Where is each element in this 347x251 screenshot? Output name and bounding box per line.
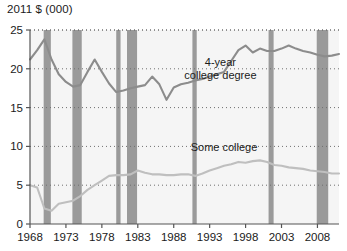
x-axis-tick-label: 1993 — [197, 231, 223, 243]
x-axis-tick-label: 1983 — [125, 231, 151, 243]
label-4year-line2: college degree — [184, 69, 256, 81]
x-axis-tick-label: 1968 — [17, 231, 43, 243]
y-axis-tick-label: 5 — [17, 179, 23, 191]
plot-area-wrapper: 0510152025 19681973197819831988199319982… — [0, 0, 347, 251]
y-axis-tick-label: 10 — [10, 140, 23, 152]
y-axis-tick-label: 25 — [10, 24, 23, 36]
y-axis-tick-label: 20 — [10, 63, 23, 75]
label-some-college-line1: Some college — [191, 141, 258, 153]
recession-band — [317, 30, 328, 224]
line-chart-svg: 0510152025 19681973197819831988199319982… — [0, 0, 347, 251]
recession-band — [192, 30, 196, 224]
x-axis-tick-label: 2003 — [269, 231, 295, 243]
x-axis-tick-label: 2008 — [305, 231, 331, 243]
x-axis-tick-label: 1998 — [233, 231, 259, 243]
recession-band — [44, 30, 51, 224]
y-axis-tick-label: 0 — [17, 218, 23, 230]
recession-band — [127, 30, 137, 224]
y-tick-labels-group: 0510152025 — [10, 24, 30, 230]
label-4year-line1: 4-year — [205, 56, 237, 68]
y-axis-tick-label: 15 — [10, 102, 23, 114]
chart-container: 2011 $ (000) 0510152025 1968197319781983… — [0, 0, 347, 251]
x-tick-labels-group: 196819731978198319881993199820032008 — [17, 224, 330, 243]
x-axis-tick-label: 1973 — [53, 231, 79, 243]
x-axis-tick-label: 1988 — [161, 231, 187, 243]
recession-band — [269, 30, 274, 224]
x-axis-tick-label: 1978 — [89, 231, 115, 243]
recession-band — [116, 30, 120, 224]
